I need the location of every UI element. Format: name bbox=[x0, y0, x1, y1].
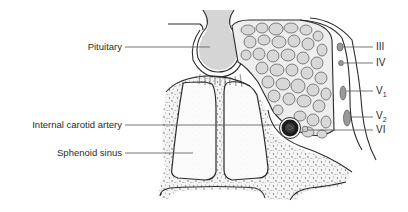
nerve-iii bbox=[337, 43, 343, 51]
label-sphenoid-sinus: Sphenoid sinus bbox=[57, 147, 122, 158]
label-cn-iv: IV bbox=[376, 57, 386, 68]
label-internal-carotid-artery: Internal carotid artery bbox=[32, 119, 122, 130]
nerve-vi bbox=[302, 126, 308, 132]
label-pituitary: Pituitary bbox=[88, 41, 123, 52]
nerve-v1 bbox=[340, 86, 346, 100]
nerve-v2 bbox=[344, 110, 351, 126]
cavernous-sinus-diagram: Pituitary Internal carotid artery Spheno… bbox=[0, 0, 408, 212]
label-cn-vi: VI bbox=[376, 124, 385, 135]
nerve-iv bbox=[339, 60, 344, 65]
diaphragma-sellae bbox=[168, 24, 203, 30]
label-cn-iii: III bbox=[376, 41, 384, 52]
label-cn-v1: V1 bbox=[376, 85, 387, 98]
label-cn-v2: V2 bbox=[376, 110, 387, 123]
internal-carotid-artery-shape bbox=[280, 118, 301, 139]
